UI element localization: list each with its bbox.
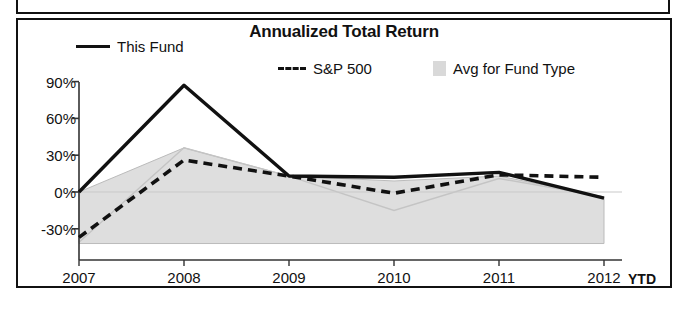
preceding-panel-bottom-edge (16, 0, 670, 14)
annualized-total-return-chart: Annualized Total Return This Fund S&P 50… (16, 18, 672, 288)
x-axis-tick-2012: 2012 (587, 269, 620, 286)
x-axis-tick-2009: 2009 (272, 269, 305, 286)
x-axis-tick-2007: 2007 (62, 269, 95, 286)
x-axis-ytd-label: YTD (628, 271, 656, 287)
plot-area: 90%60%30%0%-30% 200720082009201020112012… (18, 20, 674, 290)
x-axis-tick-2011: 2011 (483, 269, 515, 286)
chart-page: Annualized Total Return This Fund S&P 50… (0, 0, 689, 319)
x-axis-tick-2008: 2008 (167, 269, 200, 286)
chart-canvas (18, 20, 674, 290)
x-axis-tick-2010: 2010 (377, 269, 410, 286)
